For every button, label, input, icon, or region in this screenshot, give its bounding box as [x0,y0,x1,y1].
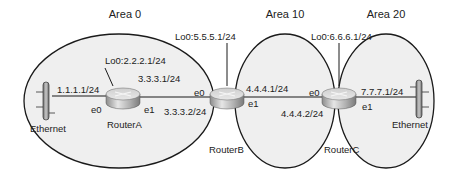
area-20-label: Area 20 [367,8,406,20]
routerB-e0-ip: 3.3.3.2/24 [164,106,206,117]
routerB-loopback: Lo0:5.5.5.1/24 [175,31,236,42]
routerC-loopback: Lo0:6.6.6.1/24 [311,31,372,42]
area-10-label: Area 10 [266,8,305,20]
routerC-e1-name: e1 [362,101,373,112]
routerA-e0-ip: 1.1.1.1/24 [57,84,99,95]
routerA-e1-name: e1 [144,104,155,115]
area-0-label: Area 0 [109,8,141,20]
network-diagram: Area 0 Area 10 Area 20 Ethernet Ethernet… [0,0,453,180]
ethernet-bus-icon [416,80,422,118]
routerA-e0-name: e0 [91,104,102,115]
routerC-e0-ip: 4.4.4.2/24 [281,108,323,119]
routerA-loopback: Lo0:2.2.2.1/24 [105,55,166,66]
routerC-e0-name: e0 [309,87,320,98]
routerA-label: RouterA [107,119,143,130]
routerB-e0-name: e0 [194,87,205,98]
ethernet-bus-icon [43,82,49,120]
routerC-label: RouterC [324,144,360,155]
routerA-e1-ip: 3.3.3.1/24 [138,73,180,84]
routerB-e1-ip: 4.4.4.1/24 [246,83,288,94]
router-b [210,88,244,109]
ethernet-right-label: Ethernet [392,119,428,130]
router-c [322,88,356,109]
ethernet-left-label: Ethernet [30,123,66,134]
routerC-e1-ip: 7.7.7.1/24 [361,86,403,97]
router-a [106,88,140,109]
routerB-e1-name: e1 [248,98,259,109]
routerB-label: RouterB [209,144,244,155]
